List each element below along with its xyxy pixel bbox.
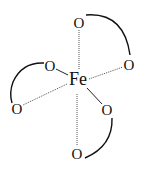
fe-octahedral-complex-diagram: Fe O O O O O O — [0, 0, 144, 169]
bond-fe-o-left-lower — [23, 84, 67, 105]
atom-o-right: O — [124, 57, 135, 73]
bond-fe-o-right — [89, 67, 123, 79]
atoms: Fe O O O O O O — [12, 15, 135, 162]
atom-o-left-upper: O — [45, 58, 56, 74]
atom-o-left-lower: O — [12, 101, 23, 117]
bond-fe-o-right-lower — [87, 88, 102, 104]
chelate-arc-bottom-right — [85, 118, 112, 158]
chelate-arc-top-right — [86, 15, 130, 55]
bond-fe-o-left-upper — [56, 69, 68, 75]
atom-o-right-lower: O — [102, 102, 113, 118]
atom-fe: Fe — [69, 69, 87, 89]
atom-o-bottom: O — [72, 146, 83, 162]
atom-o-top: O — [74, 15, 85, 31]
